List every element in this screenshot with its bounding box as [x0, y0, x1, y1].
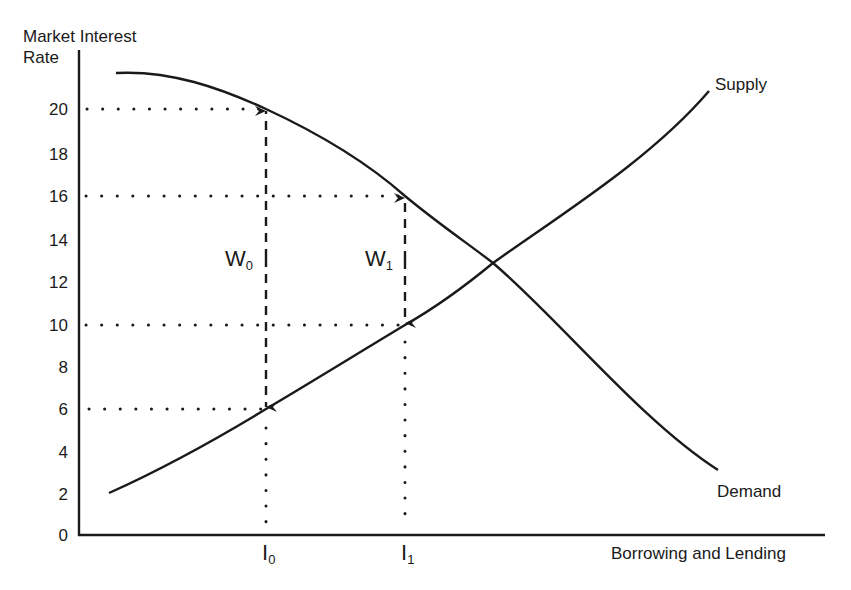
wedge-label-w1-sub: 1 [386, 258, 393, 273]
wedge-label-w0-main: W [225, 246, 246, 271]
y-tick-18: 18 [28, 146, 68, 163]
y-tick-8: 8 [28, 359, 68, 376]
demand-label: Demand [717, 483, 781, 500]
y-tick-20: 20 [28, 101, 68, 118]
y-tick-10: 10 [28, 317, 68, 334]
y-axis-title-line1: Market Interest [23, 28, 136, 45]
x-tick-i1-sub: 1 [407, 552, 414, 567]
y-tick-14: 14 [28, 232, 68, 249]
x-axis-title: Borrowing and Lending [611, 545, 786, 562]
wedge-label-w1: W1 [365, 248, 393, 272]
demand-curve [116, 73, 718, 470]
supply-curve [109, 91, 709, 493]
supply-label: Supply [715, 76, 767, 93]
dotted-reference-lines [86, 109, 405, 528]
y-tick-12: 12 [28, 274, 68, 291]
y-tick-6: 6 [28, 401, 68, 418]
y-axis-title-line2: Rate [23, 49, 59, 66]
wedge-label-w0-sub: 0 [246, 258, 253, 273]
y-tick-2: 2 [28, 486, 68, 503]
y-tick-4: 4 [28, 444, 68, 461]
x-tick-i1: I1 [401, 542, 414, 566]
y-tick-16: 16 [28, 188, 68, 205]
x-tick-i0-sub: 0 [268, 552, 275, 567]
wedge-label-w1-main: W [365, 246, 386, 271]
x-tick-i0: I0 [262, 542, 275, 566]
wedge-label-w0: W0 [225, 248, 253, 272]
y-tick-0: 0 [28, 527, 68, 544]
